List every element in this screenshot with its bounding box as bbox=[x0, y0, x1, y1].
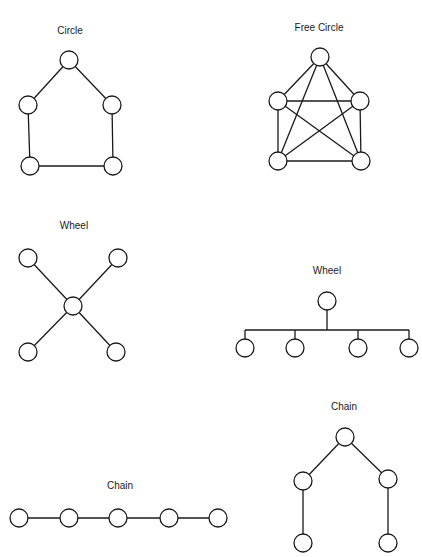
node-circle bbox=[19, 343, 37, 361]
edge-line bbox=[73, 258, 118, 306]
node-circle bbox=[209, 509, 227, 527]
node-circle bbox=[60, 51, 78, 69]
node-circle bbox=[19, 249, 37, 267]
node-circle bbox=[21, 157, 39, 175]
diagram-title-free-circle: Free Circle bbox=[295, 22, 344, 33]
diagram-title-chain-line: Chain bbox=[107, 480, 133, 491]
node-circle bbox=[311, 48, 329, 66]
edges-circle bbox=[28, 60, 113, 166]
node-circle bbox=[269, 152, 287, 170]
node-circle bbox=[318, 292, 336, 310]
edge-line bbox=[28, 258, 73, 306]
diagram-title-circle: Circle bbox=[57, 25, 83, 36]
node-circle bbox=[160, 509, 178, 527]
nodes-chain-tree bbox=[294, 428, 397, 552]
node-circle bbox=[64, 297, 82, 315]
node-circle bbox=[286, 339, 304, 357]
edges-chain-tree bbox=[303, 437, 388, 543]
nodes-circle bbox=[19, 51, 122, 175]
node-circle bbox=[236, 339, 254, 357]
node-circle bbox=[10, 509, 28, 527]
diagram-wheel-tree: Wheel bbox=[236, 265, 418, 357]
node-circle bbox=[379, 470, 397, 488]
node-circle bbox=[269, 92, 287, 110]
node-circle bbox=[103, 96, 121, 114]
node-circle bbox=[379, 534, 397, 552]
diagram-chain-line: Chain bbox=[10, 480, 227, 527]
node-circle bbox=[104, 157, 122, 175]
edges-free-circle bbox=[278, 57, 361, 161]
node-circle bbox=[294, 472, 312, 490]
edge-line bbox=[28, 306, 73, 352]
node-circle bbox=[107, 343, 125, 361]
diagram-title-wheel-star: Wheel bbox=[60, 220, 88, 231]
communication-networks-diagram: Circle Free Circle Wheel Wheel Chain Cha… bbox=[0, 0, 422, 557]
nodes-free-circle bbox=[269, 48, 370, 170]
diagram-wheel-star: Wheel bbox=[19, 220, 127, 361]
node-circle bbox=[109, 509, 127, 527]
node-circle bbox=[294, 534, 312, 552]
node-circle bbox=[352, 152, 370, 170]
node-circle bbox=[19, 96, 37, 114]
node-circle bbox=[109, 249, 127, 267]
node-circle bbox=[60, 509, 78, 527]
node-circle bbox=[400, 339, 418, 357]
node-circle bbox=[351, 92, 369, 110]
diagram-chain-tree: Chain bbox=[294, 401, 397, 552]
node-circle bbox=[349, 339, 367, 357]
diagram-free-circle: Free Circle bbox=[269, 22, 370, 170]
diagram-title-chain-tree: Chain bbox=[331, 401, 357, 412]
diagram-circle: Circle bbox=[19, 25, 122, 175]
node-circle bbox=[336, 428, 354, 446]
diagram-title-wheel-tree: Wheel bbox=[313, 265, 341, 276]
